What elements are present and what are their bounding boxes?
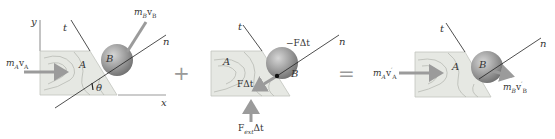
t-axis-label: t [440, 23, 445, 34]
block-a-label: A [222, 56, 230, 67]
ball-b-label: B [290, 68, 298, 79]
t-axis [71, 20, 90, 51]
ball-b-label: B [478, 59, 486, 70]
impulse-on-b-label: −FΔt [286, 38, 310, 48]
y-axis-label: y [30, 16, 37, 27]
momentum-a-label: mAv′A [373, 66, 397, 80]
panel-impulse: A t B n −FΔt FΔt FextΔt [211, 21, 345, 135]
equals-operator: = [338, 61, 355, 85]
t-axis-label: t [238, 21, 243, 32]
impulse-on-a-label: FΔt [237, 79, 254, 89]
momentum-b-arrow [127, 22, 146, 52]
t-axis [243, 25, 262, 51]
momentum-b-label: mBvB [134, 7, 157, 19]
plus-operator: + [173, 61, 190, 85]
n-axis-label: n [163, 36, 169, 47]
contact-point [275, 74, 279, 78]
ball-b [471, 51, 503, 83]
block-a-label: A [451, 61, 459, 72]
external-impulse-label: FextΔt [238, 123, 264, 135]
n-axis-label: n [339, 36, 345, 47]
panel-before: y A x t mAvA B mBvB n θ [6, 7, 169, 108]
momentum-b-label: mBv′B [503, 80, 527, 94]
impulse-momentum-diagram: y A x t mAvA B mBvB n θ [0, 0, 555, 139]
t-axis-label: t [63, 22, 68, 33]
ball-b-label: B [105, 53, 113, 64]
angle-label: θ [96, 82, 102, 93]
momentum-a-label: mAvA [6, 58, 29, 70]
block-a-label: A [78, 59, 86, 70]
n-axis-label: n [540, 38, 546, 49]
x-axis-label: x [161, 97, 167, 108]
panel-after: A t mAv′A B mBv′B n [373, 23, 546, 97]
t-axis [446, 23, 465, 52]
